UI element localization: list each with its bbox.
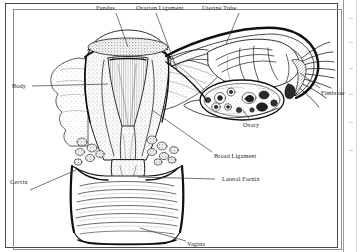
label-ovary: Ovary (243, 121, 259, 129)
label-lateral-fornix: Lateral Fornix (222, 175, 260, 183)
leader-fundus (116, 13, 128, 47)
leader-fimbriae (300, 73, 320, 88)
label-fundus: Fundus (96, 4, 115, 12)
label-vagina: Vagina (187, 240, 205, 248)
leader-cervix (30, 170, 76, 190)
leader-lines (0, 0, 361, 252)
leader-vagina (140, 228, 186, 241)
figure-page: Fundus Ovarian Ligament Uterine Tube Fim… (0, 0, 361, 252)
label-uterine-tube: Uterine Tube (202, 4, 236, 12)
leader-uterine-tube (226, 13, 239, 44)
leader-ovarian-ligament (156, 13, 178, 72)
label-broad-ligament: Broad Ligament (214, 152, 256, 160)
leader-ovary (243, 110, 250, 120)
label-ovarian-ligament: Ovarian Ligament (136, 4, 184, 12)
label-fimbriae: Fimbriae (321, 89, 345, 97)
leader-body (32, 84, 108, 86)
label-cervix: Cervix (10, 178, 28, 186)
leader-broad-ligament (152, 110, 212, 152)
label-body: Body (12, 82, 26, 90)
leader-lateral-fornix (138, 177, 215, 179)
